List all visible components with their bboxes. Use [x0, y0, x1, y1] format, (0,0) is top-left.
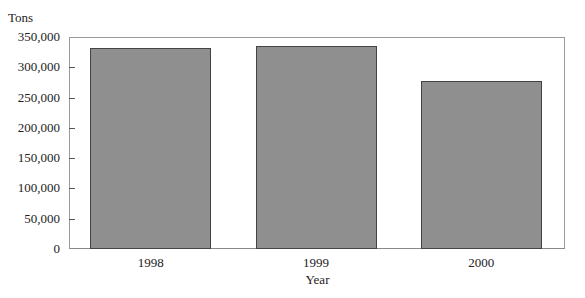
- y-tick-mark: [69, 67, 75, 68]
- bar-1998: [90, 48, 211, 249]
- y-tick-mark: [69, 98, 75, 99]
- y-tick-label: 200,000: [0, 120, 60, 136]
- x-tick-label: 1999: [256, 255, 376, 271]
- y-tick-label: 150,000: [0, 150, 60, 166]
- y-tick-mark: [69, 219, 75, 220]
- y-tick-label: 250,000: [0, 90, 60, 106]
- x-axis-title: Year: [0, 272, 585, 288]
- bar-2000: [421, 81, 542, 249]
- y-tick-label: 100,000: [0, 180, 60, 196]
- x-tick-label: 2000: [421, 255, 541, 271]
- y-tick-label: 350,000: [0, 29, 60, 45]
- y-tick-label: 50,000: [0, 211, 60, 227]
- y-tick-mark: [69, 188, 75, 189]
- y-tick-mark: [69, 158, 75, 159]
- y-axis-title: Tons: [8, 10, 33, 26]
- y-tick-label: 300,000: [0, 59, 60, 75]
- x-tick-label: 1998: [91, 255, 211, 271]
- bar-1999: [256, 46, 377, 249]
- bar-chart: Tons 050,000100,000150,000200,000250,000…: [0, 0, 585, 298]
- y-tick-label: 0: [0, 241, 60, 257]
- y-tick-mark: [69, 128, 75, 129]
